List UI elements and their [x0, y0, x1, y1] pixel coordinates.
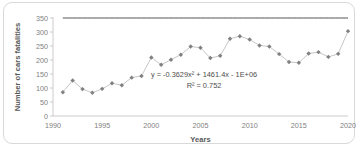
fatalities-scatter-chart: 050100150200250300350 199019952000200520… — [4, 3, 356, 145]
x-axis-title: Years — [190, 135, 210, 144]
data-point-marker — [100, 87, 104, 91]
x-tick-label: 2015 — [291, 121, 307, 130]
data-point-marker — [316, 50, 320, 54]
data-point-marker — [247, 37, 251, 41]
y-tick-label: 100 — [36, 84, 48, 93]
x-tick-label: 2010 — [242, 121, 258, 130]
data-point-marker — [110, 81, 114, 85]
y-axis-title: Number of cars fatalities — [13, 23, 22, 112]
data-point-marker — [336, 52, 340, 56]
y-tick-label: 350 — [36, 14, 48, 23]
data-point-marker — [346, 29, 350, 33]
y-tick-label: 250 — [36, 42, 48, 51]
x-tick-label: 2020 — [340, 121, 356, 130]
y-tick-label: 50 — [40, 98, 48, 107]
r-squared-label: R² = 0.752 — [187, 81, 222, 90]
x-tick-label: 2005 — [193, 121, 209, 130]
x-tick-label: 1995 — [94, 121, 110, 130]
chart-card: 050100150200250300350 199019952000200520… — [3, 2, 355, 144]
data-point-marker — [169, 58, 173, 62]
data-point-marker — [238, 34, 242, 38]
y-tick-label: 0 — [44, 112, 48, 121]
y-axis-tick-group: 050100150200250300350 — [36, 14, 53, 121]
x-tick-label: 2000 — [143, 121, 159, 130]
data-point-marker — [218, 54, 222, 58]
x-tick-label: 1990 — [45, 121, 61, 130]
x-axis-tick-group: 1990199520002005201020152020 — [45, 121, 356, 130]
trendline-equation-label: y = -0.3629x² + 1461.4x - 1E+06 — [151, 70, 257, 79]
data-point-marker — [257, 43, 261, 47]
data-point-marker — [90, 91, 94, 95]
data-point-marker — [228, 37, 232, 41]
y-tick-label: 300 — [36, 28, 48, 37]
y-tick-label: 150 — [36, 70, 48, 79]
y-tick-label: 200 — [36, 56, 48, 65]
data-point-marker — [326, 55, 330, 59]
data-point-marker — [139, 74, 143, 78]
